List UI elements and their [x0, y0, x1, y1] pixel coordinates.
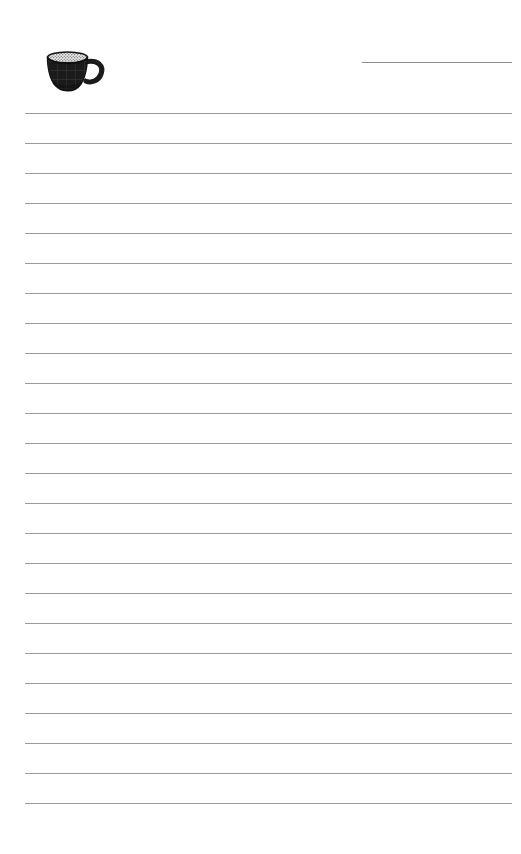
ruled-lines-area	[0, 0, 521, 854]
rule-line[interactable]	[25, 713, 512, 714]
rule-line[interactable]	[25, 503, 512, 504]
rule-line[interactable]	[25, 413, 512, 414]
rule-line[interactable]	[25, 623, 512, 624]
rule-line[interactable]	[25, 803, 512, 804]
rule-line[interactable]	[25, 383, 512, 384]
rule-line[interactable]	[25, 113, 512, 114]
rule-line[interactable]	[25, 593, 512, 594]
rule-line[interactable]	[25, 233, 512, 234]
rule-line[interactable]	[25, 143, 512, 144]
rule-line[interactable]	[25, 353, 512, 354]
rule-line[interactable]	[25, 773, 512, 774]
rule-line[interactable]	[25, 683, 512, 684]
rule-line[interactable]	[25, 173, 512, 174]
rule-line[interactable]	[25, 443, 512, 444]
rule-line[interactable]	[25, 743, 512, 744]
rule-line[interactable]	[25, 293, 512, 294]
note-page	[0, 0, 521, 854]
rule-line[interactable]	[25, 473, 512, 474]
rule-line[interactable]	[25, 653, 512, 654]
rule-line[interactable]	[25, 323, 512, 324]
rule-line[interactable]	[25, 533, 512, 534]
rule-line[interactable]	[25, 563, 512, 564]
rule-line[interactable]	[25, 263, 512, 264]
rule-line[interactable]	[25, 203, 512, 204]
